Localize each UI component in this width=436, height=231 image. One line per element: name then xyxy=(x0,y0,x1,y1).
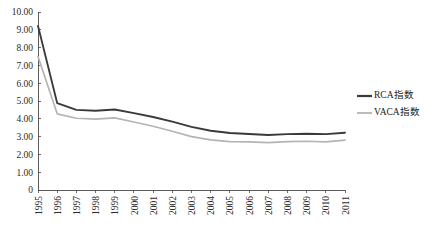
x-axis-tick-label: 2007 xyxy=(264,196,274,215)
x-axis-tick-label: 2010 xyxy=(321,196,331,215)
chart-canvas: 10.009.008.007.006.005.004.003.002.001.0… xyxy=(0,0,436,231)
y-axis-tick-label: 3.00 xyxy=(16,132,33,142)
legend-item-label: VACA指数 xyxy=(374,106,420,117)
y-axis-tick-label: 2.00 xyxy=(16,150,33,160)
y-axis-tick-label: 9.00 xyxy=(16,25,33,35)
x-axis-tick-label: 1995 xyxy=(34,196,44,215)
data-series-group xyxy=(38,26,345,143)
x-axis-tick-label: 1998 xyxy=(91,196,101,215)
x-axis-tick-label: 2006 xyxy=(245,196,255,215)
y-axis-tick-label: 0 xyxy=(28,185,33,195)
x-axis-tick-labels: 1995199619971998199920002001200220032004… xyxy=(34,196,351,215)
y-axis-tick-label: 10.00 xyxy=(12,7,34,17)
y-axis-tick-label: 4.00 xyxy=(16,114,33,124)
x-axis-tick-label: 2000 xyxy=(130,196,140,215)
x-axis-tick-label: 2008 xyxy=(283,196,293,215)
x-axis-tick-label: 2011 xyxy=(341,196,351,215)
y-axis-tick-label: 6.00 xyxy=(16,79,33,89)
y-axis-tick-label: 8.00 xyxy=(16,43,33,53)
y-axis-tick-label: 7.00 xyxy=(16,61,33,71)
x-axis-tick-label: 2003 xyxy=(187,196,197,215)
series-line-vaca xyxy=(38,57,345,143)
x-axis-tick-label: 1999 xyxy=(110,196,120,215)
x-axis-tick-label: 2009 xyxy=(302,196,312,215)
x-axis-tick-label: 2001 xyxy=(149,196,159,215)
line-chart: 10.009.008.007.006.005.004.003.002.001.0… xyxy=(0,0,436,231)
y-axis-tick-label: 1.00 xyxy=(16,168,33,178)
y-axis-tick-labels: 10.009.008.007.006.005.004.003.002.001.0… xyxy=(12,7,34,195)
x-axis-tick-label: 2002 xyxy=(168,196,178,215)
chart-legend: RCA指数VACA指数 xyxy=(357,89,420,117)
legend-item-label: RCA指数 xyxy=(374,89,414,100)
x-axis-tick-label: 2004 xyxy=(206,196,216,215)
x-axis-tick-label: 1996 xyxy=(53,196,63,215)
x-axis-tick-label: 2005 xyxy=(225,196,235,215)
y-axis-tick-label: 5.00 xyxy=(16,96,33,106)
x-axis-tick-label: 1997 xyxy=(72,196,82,215)
